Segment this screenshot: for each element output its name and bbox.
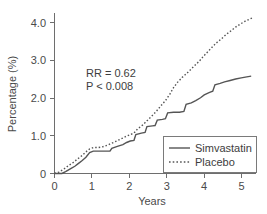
line-chart: 0 1.0 2.0 3.0 4.0 0 1 2 3 4 5 xyxy=(0,0,267,214)
annotation-pvalue-rest: < 0.008 xyxy=(93,80,133,92)
x-axis-title: Years xyxy=(138,195,166,207)
y-tick-label-0: 0 xyxy=(40,168,46,180)
y-tick-label-1: 1.0 xyxy=(31,130,46,142)
y-tick-label-3: 3.0 xyxy=(31,54,46,66)
y-tick-label-2: 2.0 xyxy=(31,92,46,104)
annotation-pvalue: P < 0.008 xyxy=(86,80,133,92)
x-axis-ticks: 0 1 2 3 4 5 xyxy=(51,174,244,193)
annotation-rr: RR = 0.62 xyxy=(86,67,136,79)
y-axis-ticks: 0 1.0 2.0 3.0 4.0 xyxy=(31,17,55,180)
legend-label-simvastatin: Simvastatin xyxy=(195,142,252,154)
legend[interactable]: Simvastatin Placebo xyxy=(164,137,257,173)
x-tick-label-2: 2 xyxy=(126,180,132,192)
annotation-pvalue-symbol: P xyxy=(86,80,93,92)
legend-label-placebo: Placebo xyxy=(195,156,235,168)
x-tick-label-4: 4 xyxy=(201,180,207,192)
x-tick-label-1: 1 xyxy=(89,180,95,192)
x-tick-label-5: 5 xyxy=(238,180,244,192)
x-tick-label-3: 3 xyxy=(164,180,170,192)
y-axis-title: Percentage (%) xyxy=(6,56,18,132)
y-tick-label-4: 4.0 xyxy=(31,17,46,29)
figure-container: 0 1.0 2.0 3.0 4.0 0 1 2 3 4 5 xyxy=(0,0,267,214)
x-tick-label-0: 0 xyxy=(51,180,57,192)
